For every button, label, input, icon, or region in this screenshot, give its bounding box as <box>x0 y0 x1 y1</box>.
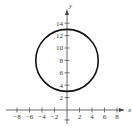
x-tick-label: −8 <box>13 113 21 121</box>
x-tick-label: 4 <box>90 113 94 121</box>
x-tick-label: −6 <box>26 113 34 121</box>
x-tick-label: −2 <box>51 113 59 121</box>
y-tick-label: 10 <box>56 44 64 52</box>
x-axis-label: x <box>127 106 132 114</box>
x-axis-arrow-icon <box>119 108 124 112</box>
y-tick-label: 8 <box>60 57 64 65</box>
x-tick-label: 8 <box>115 113 119 121</box>
y-tick-label: 2 <box>60 94 64 102</box>
y-tick-label: 12 <box>56 32 64 40</box>
circle-graph: −8−6−4−224682468101214 x y <box>0 0 132 134</box>
y-axis-label: y <box>68 2 73 10</box>
x-tick-label: −4 <box>38 113 46 121</box>
x-tick-label: 6 <box>103 113 107 121</box>
y-tick-label: 14 <box>56 20 64 28</box>
y-tick-label: 6 <box>60 69 64 77</box>
ticks: −8−6−4−224682468101214 <box>13 20 119 121</box>
y-tick-label: 4 <box>60 82 64 90</box>
x-tick-label: 2 <box>78 113 82 121</box>
axes <box>6 9 124 124</box>
